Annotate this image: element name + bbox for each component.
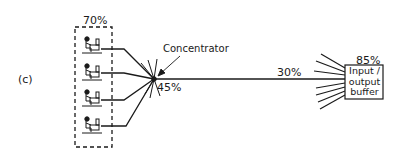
figure-part-label: (c): [18, 74, 33, 85]
concentrator-pointer-arrow: [158, 56, 180, 76]
io-buffer-label: Input / output buffer: [346, 66, 383, 98]
network-diagram: [0, 0, 396, 156]
terminal-1: [82, 37, 102, 53]
terminal-2: [82, 64, 102, 80]
io-buffer-label-line-1: Input /: [346, 66, 383, 77]
buffer-input-lines: [314, 54, 345, 109]
person-at-terminal-icon: [82, 64, 102, 80]
terminal-4: [82, 117, 102, 133]
concentrator-label: Concentrator: [163, 44, 229, 54]
terminal-3: [82, 90, 102, 106]
person-at-terminal-icon: [82, 117, 102, 133]
person-at-terminal-icon: [82, 90, 102, 106]
trunk-utilization-label: 30%: [277, 67, 301, 78]
person-at-terminal-icon: [82, 37, 102, 53]
terminal-utilization-label: 70%: [83, 15, 107, 26]
terminal-links: [101, 49, 154, 126]
concentrator-utilization-label: 45%: [157, 82, 181, 93]
io-buffer-label-line-3: buffer: [346, 87, 383, 98]
